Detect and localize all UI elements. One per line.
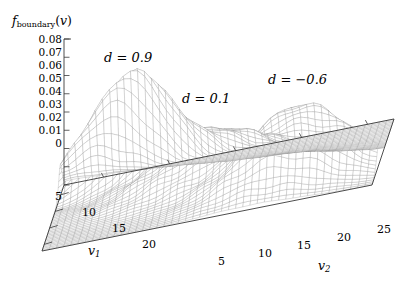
- surface-plot-figure: fboundary(v) 0.08 0.07 0.06 0.05 0.04 0.…: [0, 0, 419, 283]
- z-tick-label: 0.05: [22, 72, 62, 84]
- annotation-peak-d01: d = 0.1: [182, 91, 230, 106]
- z-tick-label: 0.01: [22, 124, 62, 136]
- x-axis-title-subscript: 1: [95, 249, 100, 259]
- z-tick-label: 0.07: [22, 46, 62, 58]
- x-axis-title: v1: [88, 243, 100, 259]
- z-tick-label: 0.06: [22, 59, 62, 71]
- x-axis-title-v: v: [88, 243, 95, 258]
- z-tick-label: 0.04: [22, 85, 62, 97]
- y-axis-title-v: v: [318, 258, 325, 273]
- annotation-peak-dm06: d = −0.6: [268, 72, 327, 87]
- plot-canvas: [0, 0, 419, 283]
- z-axis-title-subscript: boundary: [17, 20, 55, 29]
- annotation-peak-d09: d = 0.9: [104, 50, 152, 65]
- y-tick-label: 25: [377, 223, 391, 236]
- x-tick-label: 15: [112, 222, 126, 235]
- x-tick-label: 20: [142, 238, 156, 251]
- y-tick-label: 10: [258, 247, 272, 260]
- z-axis-title-paren-close: ): [67, 13, 72, 28]
- z-axis-title: fboundary(v): [12, 13, 72, 29]
- z-tick-label: 0: [22, 137, 62, 149]
- x-tick-label: 5: [55, 190, 62, 203]
- y-tick-label: 15: [297, 239, 311, 252]
- y-axis-title-subscript: 2: [325, 264, 330, 274]
- z-tick-label: 0.03: [22, 98, 62, 110]
- y-tick-label: 5: [218, 255, 225, 268]
- x-tick-label: 10: [82, 206, 96, 219]
- z-tick-label: 0.02: [22, 111, 62, 123]
- y-axis-title: v2: [318, 258, 330, 274]
- y-tick-label: 20: [337, 231, 351, 244]
- z-tick-label: 0.08: [22, 33, 62, 45]
